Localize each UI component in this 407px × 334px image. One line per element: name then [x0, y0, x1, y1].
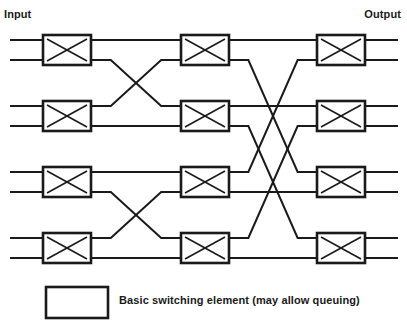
sw-3-4[interactable]: [317, 233, 365, 263]
legend-label: Basic switching element (may allow queui…: [119, 294, 360, 306]
link-s2-7: [229, 126, 317, 238]
switch-layer: [43, 35, 365, 263]
diagram-page: Input Output Basic switching element (ma…: [0, 0, 407, 334]
switching-network-diagram: [0, 0, 407, 334]
legend-swatch-layer: [46, 287, 108, 318]
legend-swatch-box: [46, 287, 108, 318]
link-s1-3: [91, 60, 181, 106]
sw-2-1[interactable]: [181, 35, 229, 65]
sw-1-1[interactable]: [43, 35, 91, 65]
link-s2-5: [229, 60, 317, 172]
link-s1-7: [91, 192, 181, 238]
sw-1-4[interactable]: [43, 233, 91, 263]
sw-2-2[interactable]: [181, 101, 229, 131]
sw-3-2[interactable]: [317, 101, 365, 131]
sw-1-2[interactable]: [43, 101, 91, 131]
sw-2-4[interactable]: [181, 233, 229, 263]
sw-3-3[interactable]: [317, 167, 365, 197]
sw-3-1[interactable]: [317, 35, 365, 65]
stub-layer: [10, 40, 398, 258]
sw-1-3[interactable]: [43, 167, 91, 197]
sw-2-3[interactable]: [181, 167, 229, 197]
link-layer: [91, 40, 317, 258]
